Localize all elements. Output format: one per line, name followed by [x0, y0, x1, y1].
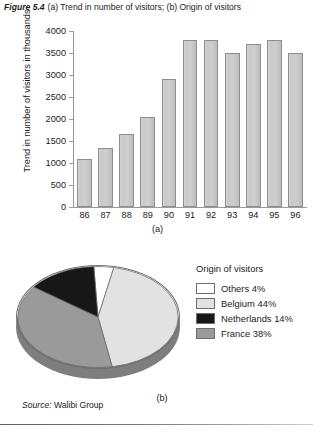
legend-item: Belgium 44% [196, 298, 314, 309]
legend-color-swatch [196, 298, 215, 309]
x-axis-tick-label: 90 [158, 210, 179, 220]
bar [288, 53, 303, 207]
x-axis-tick-label: 95 [264, 210, 285, 220]
x-axis-tick-label: 88 [116, 210, 137, 220]
figure-caption-text: (a) Trend in number of visitors; (b) Ori… [48, 2, 241, 12]
pie-chart-legend-title: Origin of visitors [196, 263, 314, 274]
bar [119, 134, 134, 207]
legend-color-swatch [196, 328, 215, 339]
bar [162, 79, 177, 207]
legend-item-label: Others 4% [221, 283, 265, 294]
bar [140, 117, 155, 207]
y-axis-tick-label: 500 [28, 180, 66, 190]
legend-item-label: France 38% [221, 328, 272, 339]
y-axis-tick-label: 1500 [28, 136, 66, 146]
x-axis-tick-label: 86 [74, 210, 95, 220]
bar-chart-sub-caption: (a) [0, 224, 315, 234]
y-axis-tick-label: 3500 [28, 48, 66, 58]
pie-chart-section: Origin of visitors Others 4%Belgium 44%N… [0, 245, 315, 436]
pie-chart-legend-rows: Others 4%Belgium 44%Netherlands 14%Franc… [196, 283, 314, 339]
x-axis-tick-label: 94 [243, 210, 264, 220]
bar-chart: Trend in number of visitors in thousands… [0, 22, 315, 232]
x-axis-tick-label: 87 [95, 210, 116, 220]
legend-item-label: Belgium 44% [221, 298, 276, 309]
source-label: Source: [22, 400, 52, 410]
bar [204, 40, 219, 207]
x-axis-tick-label: 91 [179, 210, 200, 220]
source-note: Source: Walibi Group [22, 400, 103, 410]
y-axis-tick-label: 4000 [28, 26, 66, 36]
source-value: Walibi Group [54, 400, 103, 410]
pie-chart-top-face [16, 265, 180, 369]
y-axis-tick-label: 2500 [28, 92, 66, 102]
bar [225, 53, 240, 207]
bar-chart-x-axis [73, 207, 307, 208]
bar [267, 40, 282, 207]
legend-item-label: Netherlands 14% [221, 313, 293, 324]
pie-chart-slices [17, 266, 179, 368]
bar [77, 159, 92, 207]
bar [183, 40, 198, 207]
bar [246, 44, 261, 207]
y-axis-tick-label: 0 [28, 202, 66, 212]
legend-color-swatch [196, 313, 215, 324]
y-axis-tick-label: 2000 [28, 114, 66, 124]
figure-container: Figure 5.4(a) Trend in number of visitor… [0, 0, 315, 436]
y-axis-tick-label: 3000 [28, 70, 66, 80]
pie-chart-legend: Origin of visitors Others 4%Belgium 44%N… [196, 263, 314, 343]
legend-item: France 38% [196, 328, 314, 339]
bottom-divider [0, 424, 313, 425]
y-axis-tick [69, 207, 74, 208]
y-axis-tick-label: 1000 [28, 158, 66, 168]
legend-color-swatch [196, 283, 215, 294]
pie-chart [14, 253, 184, 385]
bar [98, 148, 113, 207]
x-axis-tick-label: 89 [137, 210, 158, 220]
x-axis-tick-label: 93 [222, 210, 243, 220]
x-axis-tick-label: 92 [201, 210, 222, 220]
bar-chart-plot-area [74, 31, 306, 207]
figure-caption: Figure 5.4(a) Trend in number of visitor… [4, 2, 311, 13]
legend-item: Netherlands 14% [196, 313, 314, 324]
x-axis-tick-label: 96 [285, 210, 306, 220]
pie-chart-sub-caption: (b) [142, 393, 182, 403]
legend-item: Others 4% [196, 283, 314, 294]
